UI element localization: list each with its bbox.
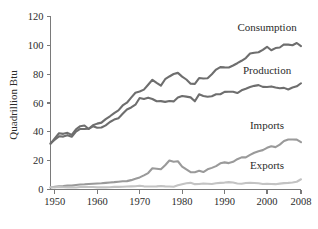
y-tick-label: 0 <box>38 184 43 195</box>
y-axis-ticks: 020406080100120 <box>28 11 51 195</box>
y-tick-label: 20 <box>33 155 44 166</box>
y-tick-label: 120 <box>28 11 44 22</box>
x-tick-label: 1980 <box>172 196 193 207</box>
x-tick-label: 1990 <box>214 196 235 207</box>
y-tick-label: 100 <box>28 40 44 51</box>
series-label-exports: Exports <box>250 159 284 171</box>
energy-line-chart: 020406080100120 195019601970198019902000… <box>0 0 318 229</box>
y-tick-label: 80 <box>33 69 44 80</box>
x-tick-label: 1950 <box>44 196 65 207</box>
x-tick-label: 1960 <box>87 196 108 207</box>
series-label-consumption: Consumption <box>237 21 297 33</box>
x-tick-label: 2000 <box>257 196 278 207</box>
y-axis-title: Quadrillion Btu <box>7 70 19 140</box>
x-axis-ticks: 1950196019701980199020002008 <box>44 190 311 207</box>
chart-canvas: 020406080100120 195019601970198019902000… <box>0 0 318 229</box>
x-tick-label: 2008 <box>291 196 312 207</box>
series-label-production: Production <box>243 64 292 76</box>
series-line-production <box>51 83 302 144</box>
y-tick-label: 60 <box>33 98 44 109</box>
y-tick-label: 40 <box>33 126 44 137</box>
series-label-imports: Imports <box>250 119 284 131</box>
x-tick-label: 1970 <box>129 196 150 207</box>
